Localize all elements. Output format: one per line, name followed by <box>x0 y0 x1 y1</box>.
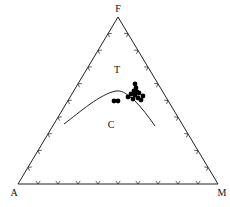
region-label-c: C <box>108 119 115 130</box>
vertex-label-m: M <box>218 187 227 198</box>
tick-mark <box>98 50 102 54</box>
vertex-label-f: F <box>115 3 121 14</box>
tick-mark <box>58 117 62 121</box>
tick-mark <box>154 83 158 87</box>
data-point <box>135 90 140 95</box>
tick-mark <box>134 50 138 54</box>
tick-mark <box>184 134 188 138</box>
tick-mark <box>194 150 198 154</box>
data-point <box>116 99 121 104</box>
tick-mark <box>68 100 72 104</box>
tick-mark <box>48 134 52 138</box>
tick-marks <box>28 33 208 184</box>
vertex-label-a: A <box>10 187 18 198</box>
tick-mark <box>78 83 82 87</box>
tick-mark <box>164 100 168 104</box>
tick-mark <box>174 117 178 121</box>
tick-mark <box>88 67 92 71</box>
region-label-t: T <box>114 64 120 75</box>
data-points <box>112 82 146 104</box>
tick-mark <box>28 167 32 171</box>
data-point <box>131 97 136 102</box>
ternary-diagram: F A M T C <box>0 0 230 207</box>
tick-mark <box>124 33 128 37</box>
tick-mark <box>38 150 42 154</box>
tick-mark <box>204 167 208 171</box>
data-point <box>126 95 131 100</box>
data-point <box>133 82 138 87</box>
tick-mark <box>108 33 112 37</box>
data-point <box>139 98 144 103</box>
tick-mark <box>144 67 148 71</box>
